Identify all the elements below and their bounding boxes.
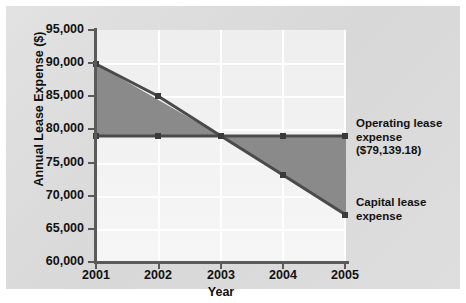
y-axis-tick xyxy=(88,62,95,64)
x-tick-label: 2001 xyxy=(66,268,126,282)
plot-area xyxy=(96,30,346,262)
chart-panel: 95,000 90,000 85,000 80,000 75,000 70,00… xyxy=(6,6,460,289)
y-tick-label: 60,000 xyxy=(6,255,84,268)
y-tick-label: 65,000 xyxy=(6,222,84,235)
operating-lease-marker xyxy=(280,133,286,139)
y-axis-tick xyxy=(88,261,95,263)
operating-lease-marker xyxy=(155,133,161,139)
capital-lease-marker xyxy=(280,172,286,178)
y-axis-tick xyxy=(88,29,95,31)
operating-lease-marker xyxy=(218,133,224,139)
y-axis-tick xyxy=(88,162,95,164)
chart-series-svg xyxy=(96,30,346,262)
y-axis-title: Annual Lease Expense ($) xyxy=(32,24,46,194)
x-tick-label: 2003 xyxy=(191,268,251,282)
x-tick-label: 2005 xyxy=(315,268,375,282)
operating-lease-annotation: Operating lease expense ($79,139.18) xyxy=(356,117,442,158)
x-tick-label: 2004 xyxy=(253,268,313,282)
capital-lease-marker xyxy=(342,212,348,218)
x-axis-title: Year xyxy=(96,285,346,299)
x-tick-label: 2002 xyxy=(128,268,188,282)
capital-lease-marker xyxy=(155,93,161,99)
y-axis-tick xyxy=(88,128,95,130)
y-axis-tick xyxy=(88,195,95,197)
y-axis-tick xyxy=(88,228,95,230)
operating-lease-marker xyxy=(342,133,348,139)
capital-lease-annotation: Capital lease expense xyxy=(356,196,426,223)
chart-screenshot: 95,000 90,000 85,000 80,000 75,000 70,00… xyxy=(0,0,466,303)
y-axis-tick xyxy=(88,95,95,97)
